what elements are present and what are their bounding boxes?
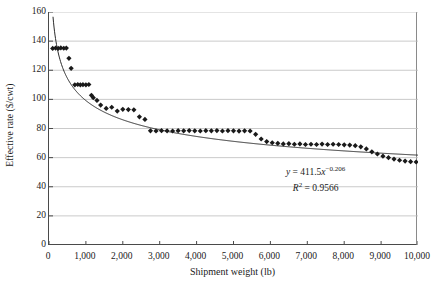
x-tick-label: 1,000 xyxy=(74,252,95,262)
data-point xyxy=(308,142,313,147)
data-point xyxy=(331,142,336,147)
trendline-annotation: y = 411.5x−0.206 R2 = 0.9566 xyxy=(286,163,345,195)
y-tick-label: 80 xyxy=(20,124,46,134)
data-point xyxy=(253,132,258,137)
plot-svg xyxy=(49,12,418,245)
y-tick-label: 20 xyxy=(20,211,46,221)
trendline xyxy=(53,17,418,155)
data-point xyxy=(264,139,269,144)
data-point xyxy=(94,98,99,103)
data-point xyxy=(131,107,136,112)
data-point xyxy=(347,143,352,148)
data-point xyxy=(286,141,291,146)
data-point xyxy=(292,142,297,147)
data-point xyxy=(86,82,91,87)
x-tick-label: 0 xyxy=(46,252,51,262)
data-point xyxy=(297,141,302,146)
x-tick-label: 3,000 xyxy=(148,252,169,262)
y-tick-label: 160 xyxy=(20,7,46,17)
y-tick-label: 0 xyxy=(20,240,46,250)
data-point xyxy=(408,159,413,164)
data-point xyxy=(109,105,114,110)
data-point xyxy=(236,129,241,134)
y-tick-label: 140 xyxy=(20,36,46,46)
r-squared: R2 = 0.9566 xyxy=(286,179,345,195)
x-tick-label: 10,000 xyxy=(404,252,430,262)
x-tick-label: 5,000 xyxy=(222,252,243,262)
data-point xyxy=(314,142,319,147)
data-point xyxy=(336,142,341,147)
x-tick-label: 9,000 xyxy=(369,252,390,262)
data-point xyxy=(375,151,380,156)
data-point xyxy=(137,114,142,119)
x-tick-label: 8,000 xyxy=(333,252,354,262)
x-tick-label: 4,000 xyxy=(185,252,206,262)
x-axis-title-label: Shipment weight (lb) xyxy=(190,266,275,277)
data-point xyxy=(319,141,324,146)
y-tick-label: 120 xyxy=(20,66,46,76)
data-point xyxy=(231,128,236,133)
data-point xyxy=(126,107,131,112)
x-axis-title: Shipment weight (lb) xyxy=(48,266,417,277)
data-point xyxy=(181,128,186,133)
data-point xyxy=(164,128,169,133)
data-point xyxy=(342,142,347,147)
data-point xyxy=(259,136,264,141)
data-point xyxy=(248,128,253,133)
data-point xyxy=(242,128,247,133)
data-point xyxy=(386,155,391,160)
data-point xyxy=(66,56,71,61)
trendline-equation: y = 411.5x−0.206 xyxy=(286,163,345,179)
data-point xyxy=(148,128,153,133)
r-squared-value: 0.9566 xyxy=(312,183,338,193)
y-tick-label: 100 xyxy=(20,95,46,105)
data-point xyxy=(303,142,308,147)
data-point xyxy=(98,102,103,107)
data-point xyxy=(142,117,147,122)
x-tick-label: 6,000 xyxy=(259,252,280,262)
data-point xyxy=(414,159,418,164)
y-tick-label: 40 xyxy=(20,182,46,192)
data-point xyxy=(358,144,363,149)
data-point xyxy=(198,128,203,133)
data-point xyxy=(364,146,369,151)
y-axis-tick-labels: 020406080100120140160 xyxy=(14,0,46,298)
data-point xyxy=(402,159,407,164)
data-point xyxy=(270,140,275,145)
data-point xyxy=(369,149,374,154)
x-tick-label: 7,000 xyxy=(296,252,317,262)
y-tick-label: 60 xyxy=(20,153,46,163)
data-point xyxy=(120,107,125,112)
plot-area xyxy=(48,12,417,245)
data-point xyxy=(115,108,120,113)
x-tick-label: 2,000 xyxy=(111,252,132,262)
data-point xyxy=(353,143,358,148)
data-point xyxy=(209,128,214,133)
data-point xyxy=(192,128,197,133)
figure-container: Effective rate ($/cwt) 02040608010012014… xyxy=(0,0,444,298)
data-point xyxy=(397,158,402,163)
data-point xyxy=(220,128,225,133)
data-point xyxy=(104,106,109,111)
data-point xyxy=(325,142,330,147)
